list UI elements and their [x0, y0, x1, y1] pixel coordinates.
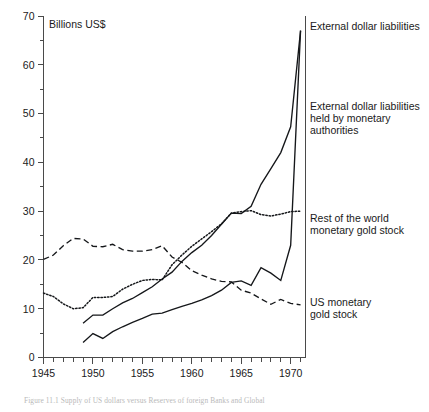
series-line-2	[44, 211, 301, 309]
x-tick-label: 1960	[180, 367, 204, 379]
x-axis-tick-labels: 194519501955196019651970	[32, 367, 303, 379]
x-axis-ticks	[44, 358, 301, 365]
x-tick-label: 1945	[32, 367, 56, 379]
series-label-1: held by monetary	[310, 112, 391, 124]
y-tick-label: 10	[23, 303, 35, 315]
series-label-1: External dollar liabilities	[310, 100, 420, 112]
chart-series-group	[44, 31, 301, 343]
y-tick-label: 0	[29, 351, 35, 363]
series-label-2: monetary gold stock	[310, 224, 405, 236]
line-chart: 010203040506070 194519501955196019651970…	[0, 0, 429, 412]
series-line-1	[83, 31, 301, 343]
series-label-2: Rest of the world	[310, 212, 389, 224]
x-tick-label: 1950	[81, 367, 105, 379]
chart-axes	[44, 16, 306, 358]
y-tick-label: 50	[23, 107, 35, 119]
series-label-3: gold stock	[310, 308, 358, 320]
series-line-0	[83, 31, 301, 324]
y-tick-label: 70	[23, 10, 35, 22]
figure-caption: Figure 11.1 Supply of US dollars versus …	[24, 396, 419, 405]
y-axis-tick-labels: 010203040506070	[23, 10, 35, 364]
figure-container: 010203040506070 194519501955196019651970…	[0, 0, 429, 412]
series-label-0: External dollar liabilities	[310, 20, 420, 32]
x-tick-label: 1965	[230, 367, 254, 379]
y-tick-label: 60	[23, 59, 35, 71]
unit-axis-label: Billions US$	[49, 18, 106, 30]
y-tick-label: 40	[23, 156, 35, 168]
x-tick-label: 1955	[131, 367, 155, 379]
y-tick-label: 30	[23, 205, 35, 217]
series-inline-labels: External dollar liabilitiesExternal doll…	[310, 20, 420, 320]
series-label-1: authorities	[310, 124, 358, 136]
series-label-3: US monetary	[310, 296, 372, 308]
y-tick-label: 20	[23, 254, 35, 266]
x-tick-label: 1970	[279, 367, 303, 379]
y-axis-ticks	[38, 16, 44, 358]
